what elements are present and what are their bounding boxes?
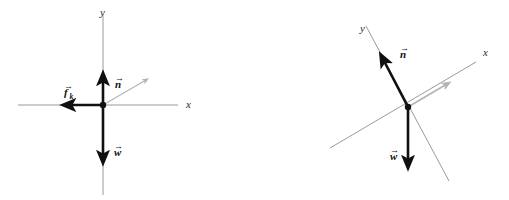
normal-force-vector-label: n xyxy=(115,78,121,90)
resultant-guide-vector-arrow xyxy=(103,80,146,105)
normal-force-vector-arrow xyxy=(383,59,408,107)
horizontal-axes-diagram: xy→fk→n→w xyxy=(18,6,191,195)
friction-vector-subscript: k xyxy=(70,92,74,101)
weight-vector-label: w xyxy=(390,150,398,162)
figure-canvas: xy→fk→n→wxy→n→w xyxy=(0,0,509,200)
friction-guide-vector-arrow xyxy=(408,84,447,107)
normal-force-vector-label: n xyxy=(400,48,406,60)
x-axis-label: x xyxy=(185,98,191,110)
origin-point xyxy=(405,104,411,110)
rotated-axes-diagram: xy→n→w xyxy=(330,22,488,181)
x-axis-line xyxy=(330,62,476,148)
panels-layer: xy→fk→n→wxy→n→w xyxy=(18,6,488,195)
physics-free-body-figure: xy→fk→n→wxy→n→w xyxy=(0,0,509,200)
x-axis-label: x xyxy=(482,46,488,58)
y-axis-label: y xyxy=(359,22,365,34)
y-axis-label: y xyxy=(99,6,105,18)
weight-vector-label: w xyxy=(114,146,122,158)
origin-point xyxy=(100,102,106,108)
